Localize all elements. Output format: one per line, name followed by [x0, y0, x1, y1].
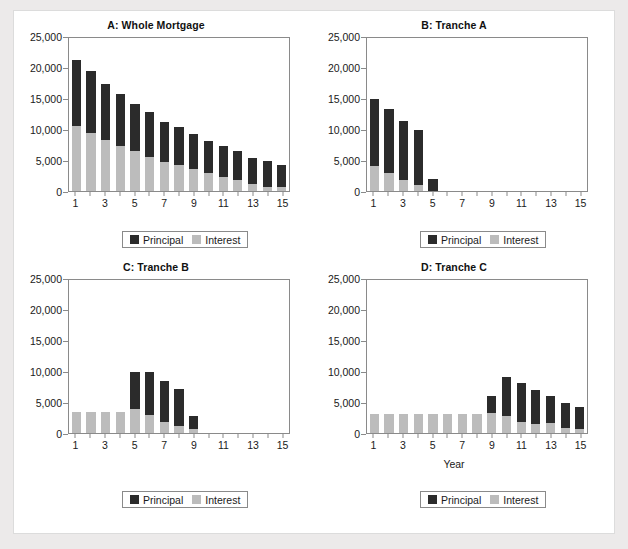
legend-label-principal: Principal [143, 234, 183, 246]
chart-panel-1: A: Whole Mortgage05,00010,00015,00020,00… [22, 19, 290, 251]
bar-slot [201, 38, 216, 191]
legend-item-principal[interactable]: Principal [130, 234, 183, 246]
stacked-bar[interactable] [472, 414, 481, 433]
stacked-bar[interactable] [502, 377, 511, 433]
figure-card: A: Whole Mortgage05,00010,00015,00020,00… [13, 10, 615, 534]
x-tick-mark [253, 192, 254, 196]
stacked-bar[interactable] [277, 165, 286, 191]
stacked-bar[interactable] [487, 396, 496, 433]
x-tick-label: 7 [161, 439, 167, 451]
stacked-bar[interactable] [189, 134, 198, 191]
stacked-bar[interactable] [561, 403, 570, 433]
stacked-bar[interactable] [174, 389, 183, 433]
x-tick-mark [521, 192, 522, 196]
stacked-bar[interactable] [116, 94, 125, 191]
bar-segment-principal [277, 165, 286, 187]
stacked-bar[interactable] [174, 127, 183, 191]
stacked-bar[interactable] [72, 412, 81, 433]
bar-segment-interest [428, 414, 437, 433]
legend-item-principal[interactable]: Principal [130, 494, 183, 506]
stacked-bar[interactable] [517, 383, 526, 433]
stacked-bar[interactable] [145, 112, 154, 191]
stacked-bar[interactable] [189, 416, 198, 433]
bar-slot [84, 38, 99, 191]
stacked-bar[interactable] [219, 146, 228, 191]
x-tick-mark [179, 192, 180, 196]
stacked-bar[interactable] [370, 99, 379, 191]
stacked-bar[interactable] [248, 158, 257, 191]
x-tick-label: 13 [545, 439, 557, 451]
stacked-bar[interactable] [86, 71, 95, 191]
bar-slot [113, 280, 128, 433]
stacked-bar[interactable] [458, 414, 467, 433]
stacked-bar[interactable] [86, 412, 95, 433]
bar-slot [426, 280, 441, 433]
stacked-bar[interactable] [233, 151, 242, 191]
x-tick-mark [477, 434, 478, 438]
bar-slot [274, 280, 289, 433]
stacked-bar[interactable] [384, 414, 393, 433]
chart-title: C: Tranche B [22, 261, 290, 273]
stacked-bar[interactable] [370, 414, 379, 433]
legend-item-principal[interactable]: Principal [428, 494, 481, 506]
legend-item-interest[interactable]: Interest [490, 234, 538, 246]
stacked-bar[interactable] [263, 161, 272, 191]
stacked-bar[interactable] [101, 84, 110, 191]
bar-segment-principal [531, 390, 540, 424]
x-tick-label: 11 [218, 197, 229, 209]
bar-slot [260, 280, 275, 433]
bar-slot [274, 38, 289, 191]
stacked-bar[interactable] [428, 414, 437, 433]
stacked-bar[interactable] [384, 109, 393, 191]
stacked-bar[interactable] [414, 130, 423, 191]
bar-segment-interest [443, 414, 452, 433]
bar-segment-interest [414, 414, 423, 433]
x-tick-mark [565, 192, 566, 196]
stacked-bar[interactable] [531, 390, 540, 433]
stacked-bar[interactable] [399, 121, 408, 191]
x-tick-mark [223, 434, 224, 438]
bar-segment-interest [502, 416, 511, 433]
bar-segment-interest [116, 146, 125, 191]
bar-segment-principal [219, 146, 228, 177]
x-tick-mark [90, 192, 91, 196]
bar-slot [142, 280, 157, 433]
stacked-bar[interactable] [130, 104, 139, 191]
stacked-bar[interactable] [72, 60, 81, 191]
stacked-bar[interactable] [443, 414, 452, 433]
stacked-bar[interactable] [160, 381, 169, 433]
bar-slot [157, 38, 172, 191]
stacked-bar[interactable] [399, 414, 408, 433]
stacked-bar[interactable] [428, 179, 437, 191]
legend-swatch-interest-icon [490, 235, 499, 244]
legend-swatch-principal-icon [428, 235, 437, 244]
bar-slot [572, 38, 587, 191]
bar-segment-interest [86, 412, 95, 433]
bar-slot [426, 38, 441, 191]
stacked-bar[interactable] [130, 372, 139, 433]
x-tick-mark [267, 434, 268, 438]
x-tick-label: 11 [218, 439, 229, 451]
x-tick-mark [149, 192, 150, 196]
bar-segment-interest [101, 412, 110, 433]
y-tick-label: 10,000 [30, 366, 62, 378]
stacked-bar[interactable] [160, 122, 169, 191]
bar-segment-principal [160, 381, 169, 422]
legend-item-interest[interactable]: Interest [490, 494, 538, 506]
x-tick-mark [75, 192, 76, 196]
x-tick-mark [193, 434, 194, 438]
stacked-bar[interactable] [414, 414, 423, 433]
stacked-bar[interactable] [116, 412, 125, 433]
legend-item-interest[interactable]: Interest [192, 494, 240, 506]
legend-item-principal[interactable]: Principal [428, 234, 481, 246]
stacked-bar[interactable] [204, 141, 213, 191]
stacked-bar[interactable] [101, 412, 110, 433]
stacked-bar[interactable] [575, 407, 584, 433]
x-tick-mark [373, 434, 374, 438]
bar-slot [382, 280, 397, 433]
bar-segment-principal [116, 94, 125, 146]
legend-item-interest[interactable]: Interest [192, 234, 240, 246]
stacked-bar[interactable] [546, 396, 555, 433]
stacked-bar[interactable] [145, 372, 154, 433]
bar-segment-principal [145, 372, 154, 415]
